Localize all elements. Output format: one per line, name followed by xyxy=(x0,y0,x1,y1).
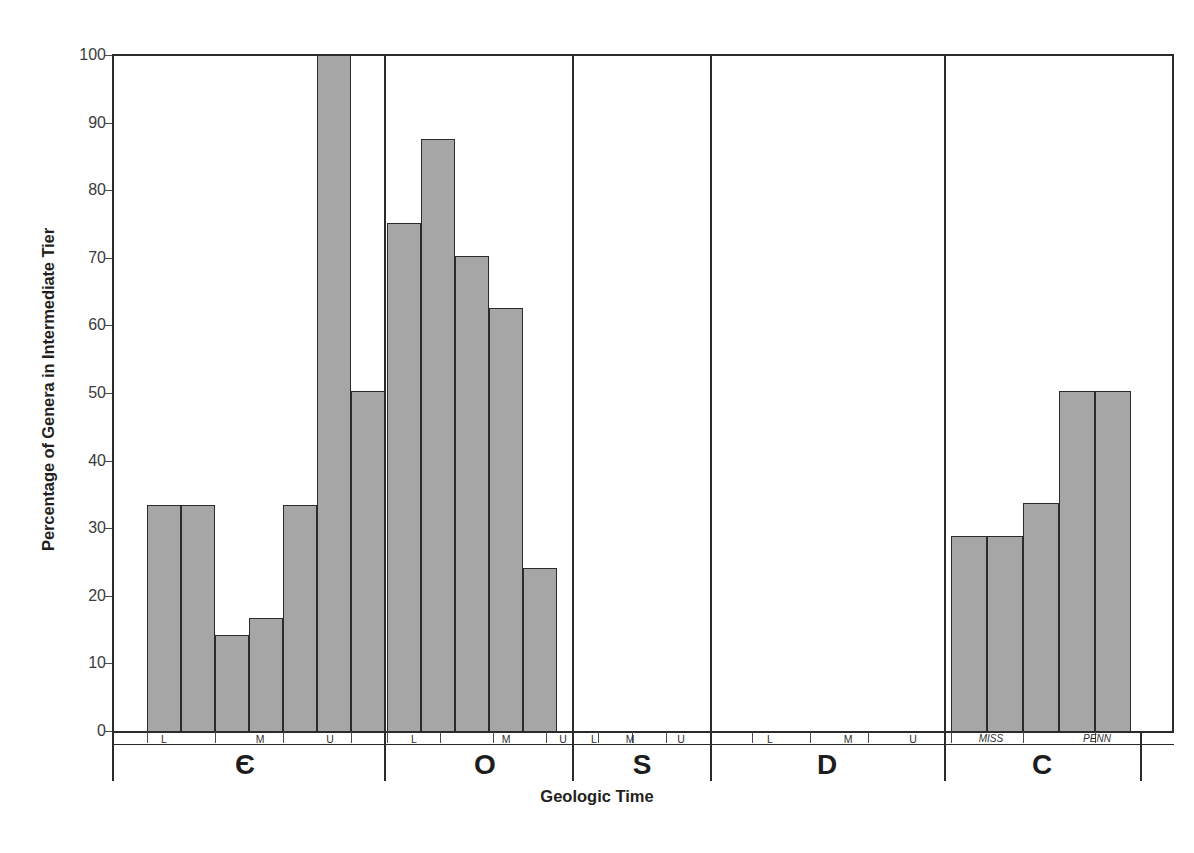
period-separator-ordovician-silurian xyxy=(572,54,574,733)
epoch-label-silurian-M: M xyxy=(618,733,642,745)
ytick-label-10: 10 xyxy=(58,655,106,671)
bar-ordovician-5 xyxy=(523,568,557,732)
ytick-mark-50 xyxy=(104,393,112,394)
epoch-label-devonian-L: L xyxy=(758,733,782,745)
period-label-carboniferous: C xyxy=(977,750,1107,780)
epoch-band-sep-right xyxy=(1140,733,1142,781)
epoch-label-cambrian-M: M xyxy=(248,733,272,745)
epoch-band-sep-left xyxy=(112,733,114,781)
epoch-label-cambrian-L: L xyxy=(152,733,176,745)
period-label-silurian: S xyxy=(577,750,707,780)
epoch-label-silurian-U: U xyxy=(669,733,693,745)
ytick-mark-80 xyxy=(104,190,112,191)
epoch-tick-devonian-2 xyxy=(810,732,811,743)
epoch-band-sep-devonian-carboniferous xyxy=(944,733,946,781)
x-axis-title: Geologic Time xyxy=(0,787,1194,806)
ytick-mark-0 xyxy=(104,731,112,732)
bar-cambrian-7 xyxy=(317,55,351,732)
bar-ordovician-2 xyxy=(421,139,455,732)
epoch-tick-ordovician-4 xyxy=(546,732,547,743)
period-separator-devonian-carboniferous xyxy=(944,54,946,733)
y-axis-title: Percentage of Genera in Intermediate Tie… xyxy=(39,80,58,700)
epoch-label-ordovician-L: L xyxy=(402,733,426,745)
ytick-mark-30 xyxy=(104,528,112,529)
epoch-label-cambrian-U: U xyxy=(318,733,342,745)
bar-ordovician-3 xyxy=(455,256,489,732)
period-label-devonian: D xyxy=(762,750,892,780)
bar-ordovician-4 xyxy=(489,308,523,732)
epoch-label-carboniferous-MISS: MISS xyxy=(967,733,1015,745)
ytick-label-80: 80 xyxy=(58,182,106,198)
epoch-label-silurian-L: L xyxy=(582,733,606,745)
bar-cambrian-5 xyxy=(249,618,283,732)
epoch-band-sep-cambrian-ordovician xyxy=(384,733,386,781)
bar-cambrian-2 xyxy=(147,505,181,732)
ytick-label-50: 50 xyxy=(58,385,106,401)
epoch-tick-silurian-3 xyxy=(666,732,667,743)
plot-right-axis xyxy=(1172,54,1174,733)
epoch-tick-devonian-1 xyxy=(752,732,753,743)
ytick-mark-20 xyxy=(104,596,112,597)
ytick-label-0: 0 xyxy=(58,723,106,739)
ytick-mark-60 xyxy=(104,325,112,326)
bar-cambrian-6 xyxy=(283,505,317,732)
ytick-label-90: 90 xyxy=(58,115,106,131)
epoch-tick-ordovician-2 xyxy=(440,732,441,743)
epoch-tick-cambrian-3 xyxy=(283,732,284,743)
period-separator-silurian-devonian xyxy=(710,54,712,733)
epoch-label-ordovician-U: U xyxy=(551,733,575,745)
ytick-mark-90 xyxy=(104,123,112,124)
period-label-ordovician: O xyxy=(420,750,550,780)
bar-cambrian-4 xyxy=(215,635,249,732)
ytick-mark-40 xyxy=(104,461,112,462)
epoch-tick-cambrian-4 xyxy=(351,732,352,743)
bar-carboniferous-4 xyxy=(1059,391,1095,732)
epoch-tick-carboniferous-2 xyxy=(1023,732,1024,743)
epoch-label-ordovician-M: M xyxy=(494,733,518,745)
bar-carboniferous-1 xyxy=(951,536,987,732)
bar-carboniferous-3 xyxy=(1023,503,1059,732)
epoch-tick-ordovician-1 xyxy=(387,732,388,743)
epoch-label-devonian-U: U xyxy=(901,733,925,745)
ytick-mark-100 xyxy=(104,55,112,56)
ytick-label-70: 70 xyxy=(58,250,106,266)
bar-carboniferous-2 xyxy=(987,536,1023,732)
plot-top-axis xyxy=(112,54,1174,56)
ytick-label-40: 40 xyxy=(58,453,106,469)
ytick-mark-10 xyxy=(104,663,112,664)
plot-left-axis xyxy=(112,54,114,733)
geologic-time-bar-chart: Percentage of Genera in Intermediate Tie… xyxy=(0,0,1194,853)
ytick-label-60: 60 xyxy=(58,317,106,333)
ytick-label-20: 20 xyxy=(58,588,106,604)
bar-cambrian-3 xyxy=(181,505,215,732)
period-label-cambrian: Є xyxy=(180,750,310,780)
epoch-tick-carboniferous-1 xyxy=(951,732,952,743)
epoch-tick-cambrian-2 xyxy=(215,732,216,743)
bar-carboniferous-5 xyxy=(1095,391,1131,732)
epoch-label-carboniferous-PENN: PENN xyxy=(1073,733,1121,745)
bar-ordovician-1 xyxy=(387,223,421,732)
epoch-tick-devonian-3 xyxy=(868,732,869,743)
bar-cambrian-8 xyxy=(351,391,385,732)
ytick-label-30: 30 xyxy=(58,520,106,536)
ytick-label-100: 100 xyxy=(58,47,106,63)
period-separator-cambrian-ordovician xyxy=(384,54,386,733)
epoch-tick-cambrian-1 xyxy=(147,732,148,743)
epoch-band-sep-silurian-devonian xyxy=(710,733,712,781)
epoch-label-devonian-M: M xyxy=(836,733,860,745)
ytick-mark-70 xyxy=(104,258,112,259)
